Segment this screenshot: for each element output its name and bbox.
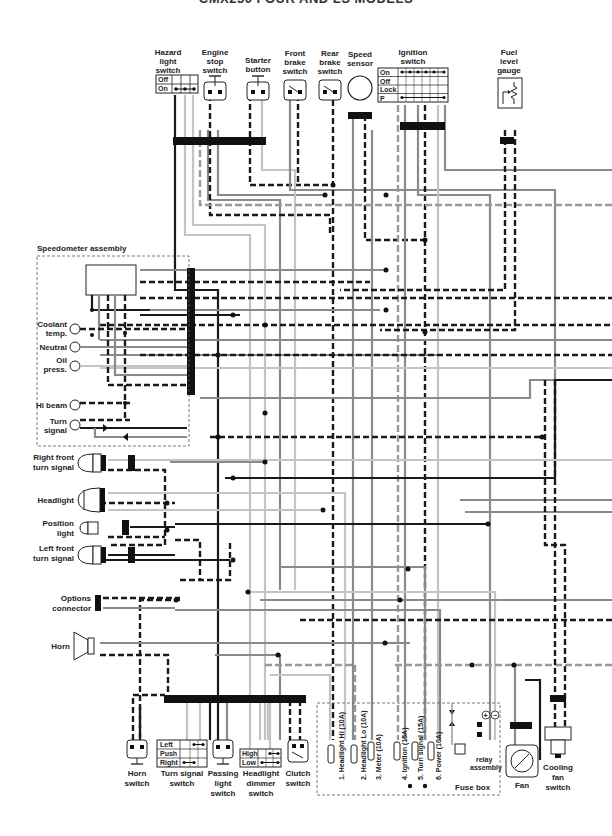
svg-text:Off: Off [158, 76, 169, 83]
svg-text:Speed: Speed [348, 50, 372, 59]
svg-text:2. Headlight Lo (10A): 2. Headlight Lo (10A) [360, 710, 368, 780]
horn: Horn [51, 632, 94, 660]
svg-text:switch: switch [211, 789, 236, 798]
svg-text:light: light [57, 529, 74, 538]
svg-text:level: level [500, 57, 518, 66]
svg-text:brake: brake [284, 58, 306, 67]
svg-text:switch: switch [170, 779, 195, 788]
svg-text:button: button [246, 65, 271, 74]
turn-signal-switch: Left Push Right Turn signal switch [157, 740, 207, 788]
ignition-switch: On Off Lock P [378, 68, 448, 102]
svg-text:Turn: Turn [50, 417, 67, 426]
svg-text:Right: Right [160, 759, 179, 767]
svg-text:3. Meter (10A): 3. Meter (10A) [375, 734, 383, 780]
svg-text:Fan: Fan [515, 781, 529, 790]
svg-text:stop: stop [207, 57, 224, 66]
svg-text:press.: press. [43, 365, 67, 374]
headlight-dimmer-switch: High Low Headlight dimmer switch [240, 749, 281, 798]
svg-text:Fuel: Fuel [501, 48, 517, 57]
svg-text:brake: brake [319, 58, 341, 67]
svg-text:Low: Low [242, 759, 257, 766]
rear-brake-switch [319, 80, 341, 100]
svg-text:+: + [484, 712, 488, 719]
svg-text:switch: switch [125, 779, 150, 788]
harness-clamp-bottom [164, 695, 306, 703]
svg-text:Left: Left [160, 741, 174, 748]
svg-text:−: − [493, 712, 497, 719]
passing-light-switch: Passing light switch [208, 740, 239, 798]
svg-text:relay: relay [476, 756, 492, 764]
harness-clamp-top [173, 137, 266, 145]
svg-text:1. Headlight Hi (10A): 1. Headlight Hi (10A) [338, 712, 346, 780]
svg-text:P: P [380, 95, 385, 102]
svg-text:switch: switch [546, 783, 571, 792]
cooling-fan-switch: Cooling fan switch [543, 695, 573, 792]
svg-text:dimmer: dimmer [247, 779, 276, 788]
svg-text:gauge: gauge [497, 66, 521, 75]
svg-text:Cooling: Cooling [543, 763, 573, 772]
svg-text:switch: switch [318, 67, 343, 76]
engine-stop-switch [204, 76, 226, 100]
svg-text:sensor: sensor [347, 59, 373, 68]
harness-clamp-speed [348, 112, 372, 119]
svg-text:assembly: assembly [470, 764, 502, 772]
svg-text:Starter: Starter [245, 56, 271, 65]
svg-text:switch: switch [156, 66, 181, 75]
svg-text:On: On [380, 69, 390, 76]
clutch-switch: Clutch switch [286, 740, 311, 788]
harness-clamp-fuel [500, 137, 514, 144]
svg-text:turn signal: turn signal [33, 463, 74, 472]
svg-text:Lock: Lock [380, 86, 396, 93]
svg-text:switch: switch [249, 789, 274, 798]
harness-clamp-ignition [400, 122, 445, 130]
fuse-3: 3. Meter (10A) [368, 734, 383, 780]
position-light: Position light [42, 519, 129, 538]
svg-text:Ignition: Ignition [399, 48, 428, 57]
svg-text:Front: Front [285, 49, 306, 58]
svg-text:Fuse box: Fuse box [455, 783, 491, 792]
fuse-5: 5. Turn signal (15A) [412, 716, 425, 780]
svg-text:Hazard: Hazard [155, 48, 182, 57]
fuse-6: 6. Power (10A) [428, 732, 443, 780]
svg-text:4. Ignition (15A): 4. Ignition (15A) [401, 728, 409, 781]
svg-text:connector: connector [52, 604, 91, 613]
svg-text:Right front: Right front [33, 453, 74, 462]
svg-text:Left front: Left front [39, 544, 74, 553]
svg-text:turn signal: turn signal [33, 554, 74, 563]
svg-text:Speedometer assembly: Speedometer assembly [37, 244, 127, 253]
svg-text:High: High [242, 750, 258, 758]
options-connector: Options connector [52, 594, 101, 613]
speedometer-assembly: Speedometer assembly Coolant temp. Neutr… [36, 244, 189, 446]
horn-switch: Horn switch [125, 740, 150, 788]
svg-text:Hi beam: Hi beam [36, 401, 67, 410]
svg-text:On: On [158, 85, 168, 92]
svg-text:temp.: temp. [46, 329, 67, 338]
svg-text:Push: Push [160, 750, 177, 757]
svg-text:Rear: Rear [321, 49, 339, 58]
fuel-level-gauge [498, 78, 522, 108]
junction-dots [165, 183, 545, 668]
svg-text:Off: Off [380, 78, 391, 85]
front-brake-switch [284, 80, 306, 100]
svg-text:Turn signal: Turn signal [161, 769, 204, 778]
svg-text:Coolant: Coolant [37, 320, 67, 329]
svg-text:light: light [215, 779, 232, 788]
svg-text:fan: fan [552, 773, 564, 782]
svg-text:Clutch: Clutch [286, 769, 311, 778]
svg-text:Headlight: Headlight [38, 496, 75, 505]
starter-button [247, 76, 269, 100]
svg-text:light: light [160, 57, 177, 66]
svg-text:switch: switch [283, 67, 308, 76]
hazard-light-switch: Off On [156, 75, 198, 93]
svg-text:Engine: Engine [202, 48, 229, 57]
svg-text:Oil: Oil [56, 356, 67, 365]
svg-text:Position: Position [42, 519, 74, 528]
harness-clamp-speedo [187, 268, 195, 395]
fuse-4: 4. Ignition (15A) [394, 728, 409, 781]
svg-text:signal: signal [44, 426, 67, 435]
fan: Fan [506, 722, 538, 790]
speed-sensor [348, 76, 372, 100]
svg-text:Horn: Horn [128, 769, 147, 778]
svg-text:Horn: Horn [51, 642, 70, 651]
svg-text:switch: switch [401, 57, 426, 66]
